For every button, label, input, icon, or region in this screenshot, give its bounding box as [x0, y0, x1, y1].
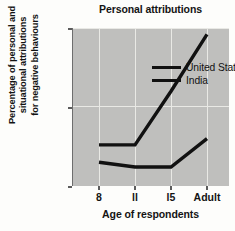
y-axis-tick-mark-0: [68, 186, 72, 188]
line-united-states: [99, 34, 207, 145]
x-axis-tick-mark-15: [170, 186, 172, 190]
x-axis-tick-label-8: 8: [96, 191, 102, 203]
plot-area: United States India: [72, 28, 229, 186]
x-axis-tick-mark-11: [134, 186, 136, 190]
legend-item-united-states: United States: [152, 61, 235, 74]
y-axis-title-text: Percentage of personal and situational a…: [7, 6, 41, 124]
x-axis-tick-label-11: ll: [132, 191, 138, 203]
line-india: [99, 139, 207, 167]
legend-label-india: India: [186, 75, 208, 86]
x-axis-title: Age of respondents: [72, 208, 229, 220]
legend-swatch-india: [152, 79, 181, 82]
x-axis-tick-label-15: l5: [167, 191, 176, 203]
chart-title: Personal attributions: [72, 3, 229, 15]
chart-legend: United States India: [152, 61, 235, 87]
legend-swatch-united-states: [152, 66, 181, 69]
series-lines: [73, 28, 229, 186]
y-axis-title: Percentage of personal and situational a…: [11, 0, 37, 145]
x-axis-tick-label-adult: Adult: [194, 191, 221, 203]
x-axis-tick-mark-adult: [206, 186, 208, 190]
legend-label-united-states: United States: [186, 62, 235, 73]
x-axis-tick-mark-8: [98, 186, 100, 190]
chart-figure: Personal attributions 50 25 0 Percentage…: [0, 0, 235, 231]
legend-item-india: India: [152, 74, 235, 87]
